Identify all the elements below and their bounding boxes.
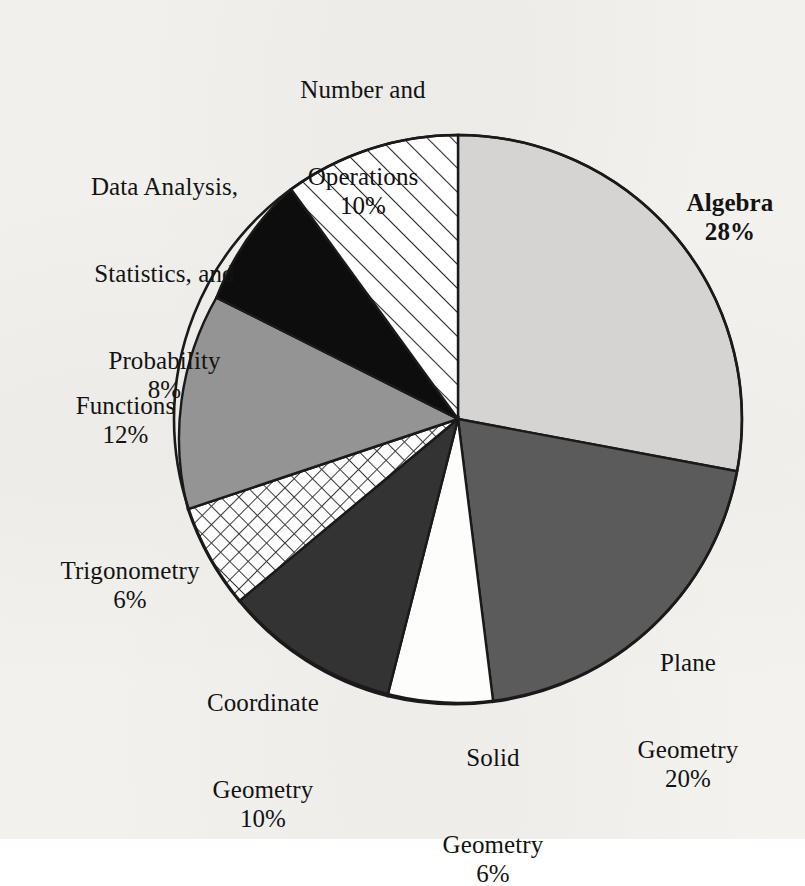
pie-label-trigonometry-line1: Trigonometry [60,557,199,584]
pie-label-coordinate-geometry-line1: Coordinate [207,689,319,716]
pie-label-algebra-line1: Algebra [687,189,774,216]
pie-label-number-operations-line2: Operations [308,163,419,190]
pie-label-plane-geometry-percent: 20% [598,764,778,793]
pie-label-coordinate-geometry: Coordinate Geometry 10% [148,659,378,862]
pie-label-plane-geometry: Plane Geometry 20% [598,619,778,822]
pie-label-data-analysis-line1: Data Analysis, [91,173,238,200]
pie-label-functions-percent: 12% [18,420,233,449]
pie-label-algebra: Algebra 28% [640,159,805,275]
pie-label-coordinate-geometry-line2: Geometry [213,776,314,803]
pie-label-solid-geometry-percent: 6% [398,859,588,886]
pie-label-number-operations-line1: Number and [300,76,425,103]
pie-label-functions: Functions 12% [18,362,233,478]
pie-label-solid-geometry: Solid Geometry 6% [398,714,588,886]
pie-label-functions-line1: Functions [76,392,176,419]
pie-label-solid-geometry-line1: Solid [466,744,519,771]
pie-label-solid-geometry-line2: Geometry [443,831,544,858]
pie-label-plane-geometry-line2: Geometry [638,736,739,763]
pie-label-trigonometry: Trigonometry 6% [20,527,240,643]
pie-label-trigonometry-percent: 6% [20,585,240,614]
pie-label-coordinate-geometry-percent: 10% [148,804,378,833]
pie-label-plane-geometry-line1: Plane [660,649,716,676]
pie-label-data-analysis-line2: Statistics, and [94,260,234,287]
pie-label-algebra-percent: 28% [640,217,805,246]
